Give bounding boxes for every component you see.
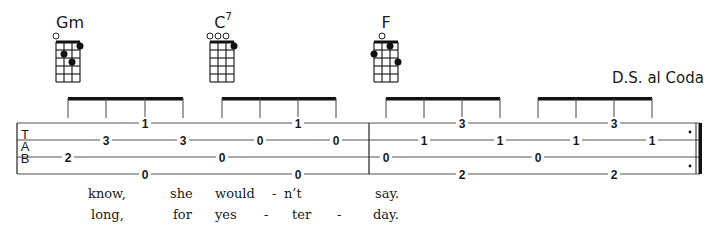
- chord-diagrams: [0, 0, 724, 100]
- open-string-marker: [215, 33, 221, 39]
- tab-notes: 23103001000132101321: [62, 117, 658, 182]
- lyric-syllable: would: [215, 186, 255, 201]
- staff-lines: [17, 123, 700, 174]
- lyric-syllable: -: [337, 207, 341, 222]
- open-string-marker: [53, 33, 59, 39]
- fret-number: 2: [459, 168, 466, 182]
- repeat-dot-upper: [689, 131, 692, 134]
- fret-number: 3: [459, 117, 466, 131]
- fret-number: 3: [180, 134, 187, 148]
- fret-number: 1: [142, 117, 149, 131]
- lyric-syllable: -: [272, 186, 276, 201]
- fret-number: 0: [333, 134, 340, 148]
- fret-number: 2: [611, 168, 618, 182]
- finger-dot: [77, 43, 84, 50]
- chord-diagram-c7: [207, 33, 238, 82]
- repeat-dot-lower: [689, 165, 692, 168]
- fret-number: 1: [573, 134, 580, 148]
- lyric-syllable: say.: [375, 186, 399, 201]
- open-string-marker: [223, 33, 229, 39]
- fret-number: 1: [421, 134, 428, 148]
- tab-staff: T A B 23103001000132101321: [0, 90, 724, 190]
- fret-number: 2: [65, 151, 72, 165]
- tab-clef: T A B: [21, 127, 30, 166]
- fret-number: 1: [295, 117, 302, 131]
- open-string-marker: [379, 33, 385, 39]
- rhythm-beams: [68, 97, 652, 118]
- finger-dot: [395, 59, 402, 66]
- tab-clef-b: B: [21, 151, 30, 166]
- end-thick-barline: [699, 123, 703, 174]
- lyric-syllable: she: [170, 186, 193, 201]
- finger-dot: [69, 59, 76, 66]
- fret-number: 0: [383, 151, 390, 165]
- fret-number: 1: [649, 134, 656, 148]
- lyric-syllable: day.: [373, 207, 399, 222]
- fret-number: 0: [142, 168, 149, 182]
- lyric-syllable: -: [264, 207, 268, 222]
- chord-diagram-f: [371, 33, 402, 82]
- fret-number: 0: [295, 168, 302, 182]
- fret-number: 0: [219, 151, 226, 165]
- fret-number: 1: [497, 134, 504, 148]
- chord-diagram-gm: [53, 33, 84, 82]
- finger-dot: [61, 51, 68, 58]
- lyric-syllable: n’t: [284, 186, 302, 201]
- lyric-syllable: for: [173, 207, 192, 222]
- finger-dot: [387, 43, 394, 50]
- fret-number: 0: [535, 151, 542, 165]
- open-string-marker: [207, 33, 213, 39]
- lyric-syllable: ter: [292, 207, 311, 222]
- fret-number: 0: [257, 134, 264, 148]
- finger-dot: [371, 51, 378, 58]
- fret-number: 3: [103, 134, 110, 148]
- lyric-syllable: know,: [88, 186, 126, 201]
- lyric-syllable: yes: [215, 207, 237, 222]
- finger-dot: [231, 43, 238, 50]
- lyric-syllable: long,: [91, 207, 124, 222]
- fret-number: 3: [611, 117, 618, 131]
